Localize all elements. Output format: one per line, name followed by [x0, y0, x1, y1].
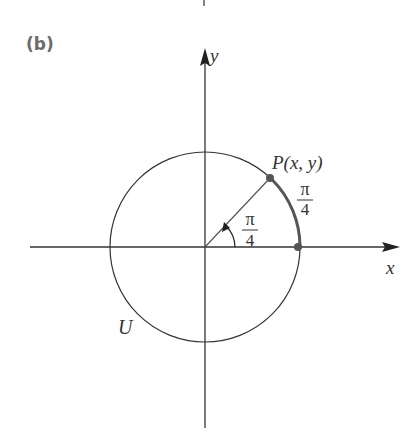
- angle-numerator: π: [245, 209, 254, 229]
- arc-denominator: 4: [301, 200, 310, 219]
- angle-denominator: 4: [246, 231, 255, 250]
- radius-line: [205, 178, 270, 247]
- arc-numerator: π: [300, 179, 309, 199]
- angle-arrow-icon: [222, 222, 230, 232]
- point-label: P(x, y): [271, 152, 323, 174]
- x-axis-label: x: [385, 257, 395, 278]
- arc-segment: [272, 180, 300, 247]
- circle-label: U: [118, 316, 134, 338]
- point-x-intercept: [294, 243, 302, 251]
- point-p: [266, 174, 274, 182]
- y-axis-label: y: [208, 45, 219, 66]
- unit-circle-diagram: y x U P(x, y) π 4 π 4: [0, 0, 418, 440]
